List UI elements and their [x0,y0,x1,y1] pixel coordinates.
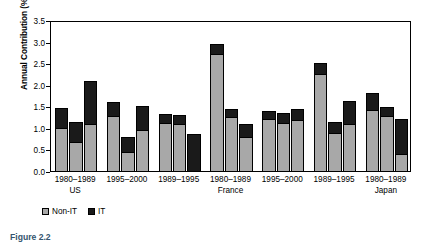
stacked-bar[interactable] [225,22,238,171]
bar-segment-non-it [210,54,223,171]
bar-segment-non-it [380,116,393,171]
stacked-bar[interactable] [69,22,82,171]
stacked-bar[interactable] [173,22,186,171]
stacked-bar[interactable] [239,22,252,171]
bar-segment-it [291,109,304,120]
bar-segment-it [239,124,252,137]
bar-segment-it [277,113,290,122]
bar-segment-non-it [291,120,304,171]
bar-group [159,22,201,171]
stacked-bar[interactable] [187,22,200,171]
bar-segment-it [314,63,327,74]
y-axis-tick-2.0: 2.0 [15,81,45,90]
bar-segment-non-it [121,152,134,171]
legend-item-non-it[interactable]: Non-IT [42,207,77,216]
x-axis-country-label-us: US [42,186,108,195]
stacked-bar[interactable] [291,22,304,171]
y-axis-tick-0.5: 0.5 [15,146,45,155]
legend-swatch-icon [88,208,95,215]
stacked-bar[interactable] [328,22,341,171]
stacked-bar[interactable] [366,22,379,171]
bar-segment-non-it [136,130,149,171]
bar-segment-it [328,122,341,133]
bar-segment-it [395,119,408,154]
stacked-bar[interactable] [262,22,275,171]
bar-segment-it [121,137,134,152]
stacked-bar[interactable] [343,22,356,171]
bar-segment-non-it [277,123,290,171]
bar-segment-it [187,134,200,171]
bar-group [262,22,304,171]
bar-segment-non-it [239,137,252,171]
bar-segment-it [262,111,275,120]
y-axis-tickmark [46,172,50,173]
stacked-bar[interactable] [136,22,149,171]
stacked-bar[interactable] [159,22,172,171]
y-axis-tick-1.0: 1.0 [15,124,45,133]
bar-segment-it [84,81,97,124]
bar-segment-non-it [107,116,120,171]
bar-segment-it [136,106,149,130]
bar-segment-non-it [262,119,275,171]
stacked-bar[interactable] [84,22,97,171]
bar-segment-it [366,93,379,110]
y-axis-tick-3.0: 3.0 [15,38,45,47]
chart-legend: Non-ITIT [42,207,105,216]
bar-segment-it [225,109,238,117]
stacked-bar[interactable] [380,22,393,171]
x-axis-country-label-france: France [197,186,263,195]
stacked-bar[interactable] [107,22,120,171]
bar-group [210,22,252,171]
stacked-bar[interactable] [395,22,408,171]
bar-segment-non-it [69,142,82,171]
bar-segment-it [210,44,223,53]
legend-label: Non-IT [52,207,77,216]
plot-area [50,21,411,172]
y-axis-tick-2.5: 2.5 [15,60,45,69]
stacked-bar[interactable] [121,22,134,171]
bar-segment-non-it [395,154,408,171]
legend-item-it[interactable]: IT [88,207,105,216]
bar-segment-non-it [173,124,186,171]
bar-segment-non-it [328,133,341,171]
bars-layer [51,22,410,171]
bar-group [366,22,408,171]
stacked-bar[interactable] [210,22,223,171]
y-axis-tick-1.5: 1.5 [15,103,45,112]
bar-segment-non-it [55,128,68,171]
bar-segment-it [69,122,82,141]
bar-segment-non-it [343,124,356,171]
x-axis-country-label-japan: Japan [353,186,419,195]
bar-segment-non-it [366,110,379,171]
legend-label: IT [98,207,105,216]
bar-segment-non-it [84,124,97,171]
bar-group [107,22,149,171]
bar-segment-non-it [225,117,238,171]
bar-segment-it [107,102,120,116]
bar-segment-non-it [314,74,327,171]
bar-segment-it [343,101,356,123]
stacked-bar[interactable] [314,22,327,171]
bar-segment-non-it [159,123,172,171]
y-axis-tick-0.0: 0.0 [15,168,45,177]
bar-segment-it [173,115,186,124]
legend-swatch-icon [42,208,49,215]
x-axis-period-label: 1980–1989 [353,175,419,184]
bar-group [55,22,97,171]
stacked-bar[interactable] [277,22,290,171]
bar-segment-it [159,114,172,123]
bar-segment-it [380,107,393,116]
figure-caption: Figure 2.2 [10,232,51,242]
bar-group [314,22,356,171]
bar-segment-it [55,108,68,127]
stacked-bar[interactable] [55,22,68,171]
y-axis-tick-3.5: 3.5 [15,17,45,26]
